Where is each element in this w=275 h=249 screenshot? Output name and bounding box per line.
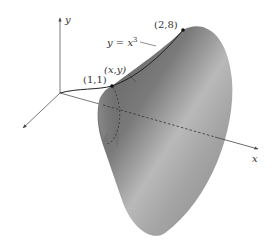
point-x-y-label: (x,y) [104,64,126,75]
leader-equation [140,42,156,46]
equation-exponent: 3 [133,36,137,44]
y-axis-label: y [64,14,71,25]
z-axis [23,93,60,128]
point-1-1 [110,84,114,88]
equation-main: y = x [106,37,133,48]
point-1-1-label: (1,1) [83,74,107,85]
point-2-8 [181,28,185,32]
x-axis-front [60,93,103,105]
point-2-8-label: (2,8) [154,19,178,30]
x-axis-label: x [252,153,258,164]
equation-label: y = x3 [106,36,138,48]
surface-of-revolution-figure: y x (2,8) (1,1) (x,y) y = x3 [0,0,275,249]
